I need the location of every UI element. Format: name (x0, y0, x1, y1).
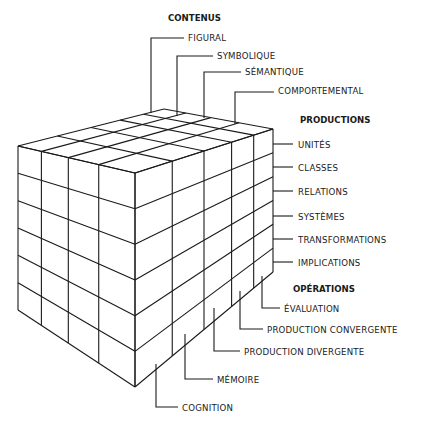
contenus-label-symbolique: SYMBOLIQUE (217, 51, 275, 61)
contenus-label-semantique: SÉMANTIQUE (245, 67, 304, 77)
operations-label-memoire: MÉMOIRE (217, 375, 259, 385)
productions-label-transformations: TRANSFORMATIONS (298, 235, 386, 245)
productions-title: PRODUCTIONS (300, 115, 370, 125)
operations-label-evaluation: ÉVALUATION (284, 304, 339, 314)
operations-label-production-divergente: PRODUCTION DIVERGENTE (244, 347, 364, 357)
cube-figure (0, 0, 432, 428)
contenus-title: CONTENUS (168, 13, 221, 23)
productions-label-unites: UNITÉS (298, 140, 331, 150)
contenus-label-comportemental: COMPORTEMENTAL (278, 86, 363, 96)
operations-title: OPÉRATIONS (293, 284, 355, 294)
contenus-label-figural: FIGURAL (188, 33, 226, 43)
productions-label-classes: CLASSES (298, 163, 338, 173)
operations-label-cognition: COGNITION (182, 403, 233, 413)
operations-label-production-convergente: PRODUCTION CONVERGENTE (267, 325, 398, 335)
productions-label-relations: RELATIONS (298, 187, 348, 197)
productions-label-implications: IMPLICATIONS (298, 258, 361, 268)
productions-label-systemes: SYSTÈMES (298, 212, 345, 222)
